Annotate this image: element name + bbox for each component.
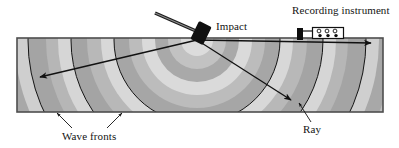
ray-label: Ray xyxy=(303,123,321,135)
recording-instrument-label: Recording instrument xyxy=(292,4,390,16)
recorder-dial-2 xyxy=(325,29,329,33)
geophone-icon xyxy=(297,28,303,40)
recorder-knob-2 xyxy=(326,34,329,37)
wave-fronts-label: Wave fronts xyxy=(62,130,116,142)
seismic-wave-diagram: Impact Recording instrument Wave fronts … xyxy=(0,0,399,148)
wave-fronts-leader-left xyxy=(57,113,72,128)
wave-front-bands xyxy=(1,0,393,148)
diagram-canvas xyxy=(0,0,399,148)
recorder-knob-1 xyxy=(318,34,321,37)
recorder-dial-1 xyxy=(317,29,321,33)
impact-label: Impact xyxy=(216,20,247,32)
recorder-knob-3 xyxy=(334,34,337,37)
wave-fronts-leaders xyxy=(57,113,122,128)
recorder-dial-3 xyxy=(333,29,337,33)
wave-fronts-leader-right xyxy=(107,113,122,128)
